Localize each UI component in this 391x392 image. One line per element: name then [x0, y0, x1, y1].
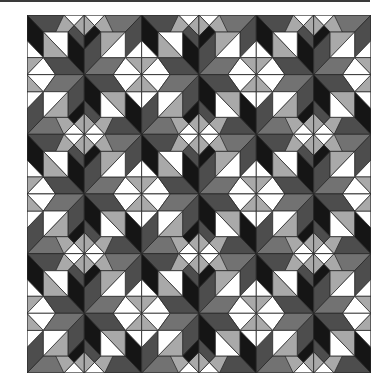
- quilt-block: [27, 254, 142, 373]
- quilt-block: [27, 134, 142, 253]
- quilt-block: [27, 15, 142, 134]
- quilt-block: [142, 254, 257, 373]
- quilt-pattern: [27, 15, 371, 373]
- quilt-block: [256, 15, 371, 134]
- quilt-svg: [27, 15, 371, 373]
- top-border-line: [0, 0, 370, 2]
- quilt-block: [142, 134, 257, 253]
- quilt-block: [142, 15, 257, 134]
- quilt-block: [256, 254, 371, 373]
- quilt-block: [256, 134, 371, 253]
